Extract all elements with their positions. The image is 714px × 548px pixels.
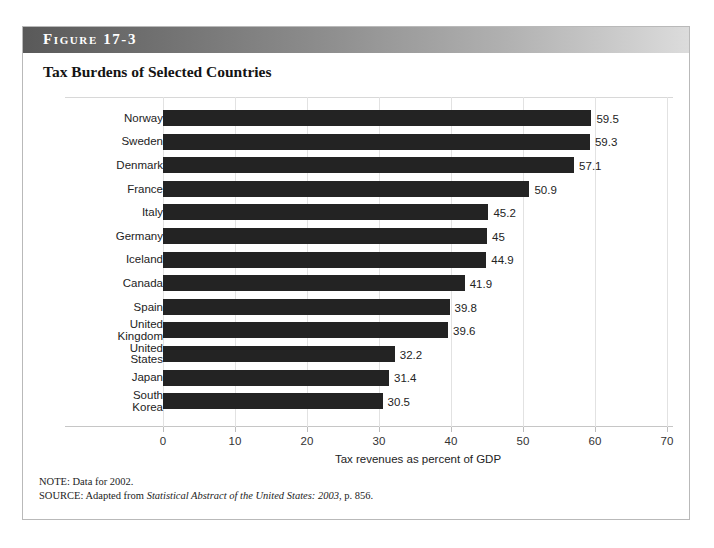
bar-row: Japan31.4 (65, 367, 673, 391)
category-label: Norway (53, 113, 163, 125)
bar-row: Spain39.8 (65, 296, 673, 320)
source-line: SOURCE: Adapted from Statistical Abstrac… (39, 489, 373, 503)
bar-row: South Korea30.5 (65, 390, 673, 414)
x-tick-40 (451, 427, 452, 432)
bar-value-label: 59.3 (595, 136, 617, 148)
source-suffix: , p. 856. (339, 490, 373, 501)
bar-value-label: 32.2 (400, 349, 422, 361)
category-label: Italy (53, 207, 163, 219)
bar-row: Canada41.9 (65, 272, 673, 296)
figure-container: Figure 17-3 Tax Burdens of Selected Coun… (22, 26, 690, 520)
bar (163, 157, 574, 173)
x-tick-label-40: 40 (445, 435, 458, 447)
bar (163, 346, 395, 362)
category-label: Japan (53, 373, 163, 385)
category-label: Canada (53, 278, 163, 290)
figure-footnotes: NOTE: Data for 2002. SOURCE: Adapted fro… (39, 475, 373, 502)
bar-value-label: 57.1 (579, 160, 601, 172)
bar-value-label: 45 (492, 231, 505, 243)
bar-value-label: 39.6 (453, 325, 475, 337)
bar (163, 110, 591, 126)
x-tick-30 (379, 427, 380, 432)
category-label: Denmark (53, 160, 163, 172)
bar (163, 134, 590, 150)
x-tick-10 (235, 427, 236, 432)
bar-row: France50.9 (65, 178, 673, 202)
category-label: United Kingdom (53, 320, 163, 343)
bar-row: Norway59.5 (65, 107, 673, 131)
x-tick-label-30: 30 (373, 435, 386, 447)
bar-row: Sweden59.3 (65, 131, 673, 155)
category-label: Spain (53, 302, 163, 314)
category-label: Sweden (53, 137, 163, 149)
x-tick-50 (523, 427, 524, 432)
source-title: Statistical Abstract of the United State… (147, 490, 339, 501)
bar-value-label: 30.5 (388, 396, 410, 408)
x-tick-label-60: 60 (589, 435, 602, 447)
bar (163, 252, 486, 268)
figure-label: Figure 17-3 (43, 31, 137, 48)
bar (163, 204, 488, 220)
bar (163, 228, 487, 244)
bar-value-label: 50.9 (534, 184, 556, 196)
bar-row: Denmark57.1 (65, 154, 673, 178)
bar (163, 322, 448, 338)
x-tick-20 (307, 427, 308, 432)
bar-value-label: 59.5 (596, 113, 618, 125)
plot-top-rule (65, 97, 673, 98)
bar-rows: Norway59.5Sweden59.3Denmark57.1France50.… (65, 107, 673, 414)
bar (163, 275, 465, 291)
x-tick-label-0: 0 (160, 435, 166, 447)
bar-value-label: 31.4 (394, 372, 416, 384)
x-tick-0 (163, 427, 164, 432)
x-axis-title: Tax revenues as percent of GDP (163, 453, 673, 465)
bar (163, 181, 529, 197)
category-label: Iceland (53, 255, 163, 267)
bar-row: Iceland44.9 (65, 249, 673, 273)
x-tick-label-20: 20 (301, 435, 314, 447)
x-axis-line (65, 426, 673, 427)
x-tick-70 (667, 427, 668, 432)
source-prefix: SOURCE: Adapted from (39, 490, 147, 501)
bar (163, 393, 383, 409)
x-tick-label-50: 50 (517, 435, 530, 447)
category-label: France (53, 184, 163, 196)
bar-row: United Kingdom39.6 (65, 319, 673, 343)
bar-value-label: 39.8 (455, 302, 477, 314)
bar-row: Italy45.2 (65, 201, 673, 225)
bar (163, 299, 450, 315)
plot-area: Norway59.5Sweden59.3Denmark57.1France50.… (65, 97, 673, 427)
x-tick-60 (595, 427, 596, 432)
bar-row: United States32.2 (65, 343, 673, 367)
x-tick-label-70: 70 (661, 435, 674, 447)
bar-row: Germany45 (65, 225, 673, 249)
bar-value-label: 45.2 (493, 207, 515, 219)
category-label: Germany (53, 231, 163, 243)
figure-banner: Figure 17-3 (23, 27, 689, 53)
bar-value-label: 44.9 (491, 254, 513, 266)
bar (163, 370, 389, 386)
category-label: South Korea (53, 390, 163, 413)
category-label: United States (53, 343, 163, 366)
bar-value-label: 41.9 (470, 278, 492, 290)
x-tick-label-10: 10 (229, 435, 242, 447)
chart-title: Tax Burdens of Selected Countries (43, 63, 272, 81)
note-line: NOTE: Data for 2002. (39, 475, 373, 489)
